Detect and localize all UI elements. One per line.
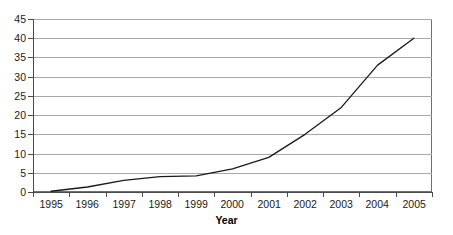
x-axis-tick-label: 1999: [178, 199, 214, 210]
x-axis-tick-label: 1996: [69, 199, 105, 210]
gridline: [34, 96, 432, 97]
y-axis-tick-label: 45: [2, 14, 26, 25]
x-axis-tick: [359, 192, 360, 197]
y-axis-tick-label: 35: [2, 52, 26, 63]
x-axis-line: [33, 192, 433, 193]
y-axis-tick: [28, 134, 33, 135]
y-axis-tick-label: 40: [2, 33, 26, 44]
x-axis-tick: [33, 192, 34, 197]
x-axis-tick-label: 1997: [106, 199, 142, 210]
gridline: [34, 38, 432, 39]
x-axis-tick: [432, 192, 433, 197]
x-axis-tick: [287, 192, 288, 197]
y-axis-tick-label: 25: [2, 91, 26, 102]
gridline: [34, 173, 432, 174]
y-axis-tick: [28, 77, 33, 78]
y-axis-tick: [28, 19, 33, 20]
y-axis-tick: [28, 154, 33, 155]
gridline: [34, 77, 432, 78]
x-axis-tick-label: 2002: [287, 199, 323, 210]
y-axis-tick-label: 5: [2, 168, 26, 179]
y-axis-tick: [28, 57, 33, 58]
x-axis-tick: [323, 192, 324, 197]
gridline: [34, 154, 432, 155]
y-axis-tick-label: 10: [2, 149, 26, 160]
x-axis-tick-label: 2001: [251, 199, 287, 210]
x-axis-tick: [69, 192, 70, 197]
y-axis-tick-label: 20: [2, 110, 26, 121]
x-axis-tick: [214, 192, 215, 197]
x-axis-tick-label: 2003: [323, 199, 359, 210]
y-axis-tick-label: 0: [2, 187, 26, 198]
y-axis-tick: [28, 173, 33, 174]
y-axis-tick-label: 30: [2, 72, 26, 83]
x-axis-tick-label: 2004: [359, 199, 395, 210]
x-axis-tick-label: 2000: [214, 199, 250, 210]
gridline: [34, 57, 432, 58]
gridline: [34, 115, 432, 116]
y-axis-line: [33, 19, 34, 193]
x-axis-tick: [106, 192, 107, 197]
y-axis-tick: [28, 96, 33, 97]
line-chart: 051015202530354045 199519961997199819992…: [0, 0, 453, 235]
x-axis-title: Year: [0, 214, 453, 226]
gridline: [34, 19, 432, 20]
x-axis-tick: [178, 192, 179, 197]
x-axis-tick: [251, 192, 252, 197]
gridline: [34, 134, 432, 135]
plot-area-border: [33, 19, 432, 192]
x-axis-tick-label: 1995: [33, 199, 69, 210]
y-axis-tick: [28, 115, 33, 116]
x-axis-tick: [396, 192, 397, 197]
y-axis-tick-label: 15: [2, 129, 26, 140]
x-axis-tick-label: 2005: [396, 199, 432, 210]
y-axis-tick: [28, 38, 33, 39]
x-axis-tick: [142, 192, 143, 197]
x-axis-tick-label: 1998: [142, 199, 178, 210]
